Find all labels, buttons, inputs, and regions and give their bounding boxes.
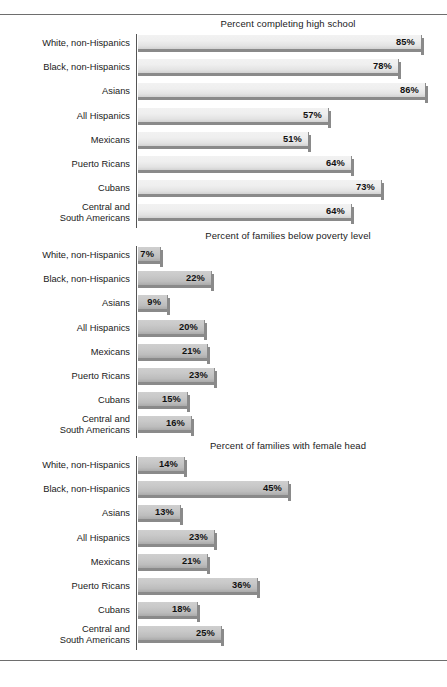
bar-shadow xyxy=(180,508,183,525)
bar-value-label: 45% xyxy=(263,483,282,493)
bar-value-label: 36% xyxy=(232,580,251,590)
panel-title: Percent of families with female head xyxy=(138,440,438,451)
bar: 23% xyxy=(138,368,215,385)
bar-row: All Hispanics23% xyxy=(0,529,447,555)
bar-row: Central and South Americans64% xyxy=(0,203,447,229)
category-label: Mexicans xyxy=(0,553,130,568)
bar-value-label: 21% xyxy=(182,346,201,356)
bar-row: All Hispanics57% xyxy=(0,107,447,133)
bar-row: Puerto Ricans64% xyxy=(0,155,447,181)
bar-value-label: 22% xyxy=(186,273,205,283)
bar-row: Central and South Americans25% xyxy=(0,625,447,651)
bar: 21% xyxy=(138,554,208,571)
bar-row: Mexicans51% xyxy=(0,131,447,157)
category-label: Mexicans xyxy=(0,131,130,146)
bar-row: White, non-Hispanics85% xyxy=(0,34,447,60)
bar-value-label: 7% xyxy=(140,249,154,259)
bar: 36% xyxy=(138,578,258,595)
category-label: Puerto Ricans xyxy=(0,367,130,382)
chart-panel-high-school: Percent completing high school White, no… xyxy=(0,18,447,230)
bar-value-label: 13% xyxy=(155,507,174,517)
bar-value-label: 78% xyxy=(373,61,392,71)
panel-title: Percent of families below poverty level xyxy=(138,230,438,241)
bar-shadow xyxy=(288,484,291,501)
category-label: Puerto Ricans xyxy=(0,155,130,170)
bar-value-label: 16% xyxy=(166,418,185,428)
bar-shadow xyxy=(197,605,200,622)
bar-shadow xyxy=(257,581,260,598)
bar-row: Asians86% xyxy=(0,82,447,108)
bar-shadow xyxy=(207,347,210,364)
bar-shadow xyxy=(425,86,428,103)
bar-shadow xyxy=(351,159,354,176)
category-label: All Hispanics xyxy=(0,529,130,544)
bar-row: Black, non-Hispanics45% xyxy=(0,480,447,506)
bar: 64% xyxy=(138,156,352,173)
bar-value-label: 23% xyxy=(189,532,208,542)
bar-shadow xyxy=(398,62,401,79)
category-label: Asians xyxy=(0,82,130,97)
bar: 18% xyxy=(138,602,198,619)
bar-row: Cubans15% xyxy=(0,391,447,417)
chart-figure: Percent completing high school White, no… xyxy=(0,0,447,687)
bar-value-label: 73% xyxy=(356,182,375,192)
bar-row: Mexicans21% xyxy=(0,553,447,579)
category-label: Cubans xyxy=(0,391,130,406)
category-label: Mexicans xyxy=(0,343,130,358)
category-label: Asians xyxy=(0,294,130,309)
bar: 21% xyxy=(138,344,208,361)
bar: 64% xyxy=(138,204,352,221)
category-label: All Hispanics xyxy=(0,107,130,122)
bar: 7% xyxy=(138,247,161,264)
bar-row: Asians9% xyxy=(0,294,447,320)
bar-value-label: 64% xyxy=(326,158,345,168)
bar-value-label: 85% xyxy=(396,37,415,47)
bar: 51% xyxy=(138,132,309,149)
bar: 9% xyxy=(138,295,168,312)
bar-shadow xyxy=(187,395,190,412)
top-divider-rule xyxy=(0,14,447,15)
bar: 14% xyxy=(138,457,185,474)
bar-row: Black, non-Hispanics78% xyxy=(0,58,447,84)
category-label: Puerto Ricans xyxy=(0,577,130,592)
category-label: Cubans xyxy=(0,179,130,194)
bar: 16% xyxy=(138,416,192,433)
panel-title: Percent completing high school xyxy=(138,18,438,29)
bar-row: Black, non-Hispanics22% xyxy=(0,270,447,296)
bar-row: Mexicans21% xyxy=(0,343,447,369)
bar: 73% xyxy=(138,180,382,197)
category-label: All Hispanics xyxy=(0,319,130,334)
bar-value-label: 21% xyxy=(182,556,201,566)
bar-shadow xyxy=(204,323,207,340)
category-label: Central and South Americans xyxy=(0,624,130,645)
category-label: White, non-Hispanics xyxy=(0,34,130,49)
bar-row: Puerto Ricans36% xyxy=(0,577,447,603)
bar-row: Asians13% xyxy=(0,504,447,530)
category-label: White, non-Hispanics xyxy=(0,456,130,471)
bar-row: Puerto Ricans23% xyxy=(0,367,447,393)
bar-shadow xyxy=(308,135,311,152)
bar: 13% xyxy=(138,505,181,522)
bar-value-label: 18% xyxy=(172,604,191,614)
bar-value-label: 86% xyxy=(400,85,419,95)
bar: 20% xyxy=(138,320,205,337)
bar-row: Cubans18% xyxy=(0,601,447,627)
bar-value-label: 25% xyxy=(196,628,215,638)
bar-value-label: 20% xyxy=(179,322,198,332)
bar-row: Cubans73% xyxy=(0,179,447,205)
bar-shadow xyxy=(167,298,170,315)
bar-value-label: 51% xyxy=(283,134,302,144)
bar-shadow xyxy=(211,274,214,291)
bar-shadow xyxy=(221,629,224,646)
bar-value-label: 57% xyxy=(303,110,322,120)
category-label: Black, non-Hispanics xyxy=(0,58,130,73)
bar-row: White, non-Hispanics14% xyxy=(0,456,447,482)
bar-shadow xyxy=(351,207,354,224)
bar-value-label: 23% xyxy=(189,370,208,380)
bar-shadow xyxy=(214,371,217,388)
bar-row: White, non-Hispanics7% xyxy=(0,246,447,272)
category-label: White, non-Hispanics xyxy=(0,246,130,261)
bar-shadow xyxy=(191,419,194,436)
bar: 57% xyxy=(138,108,329,125)
category-label: Black, non-Hispanics xyxy=(0,480,130,495)
